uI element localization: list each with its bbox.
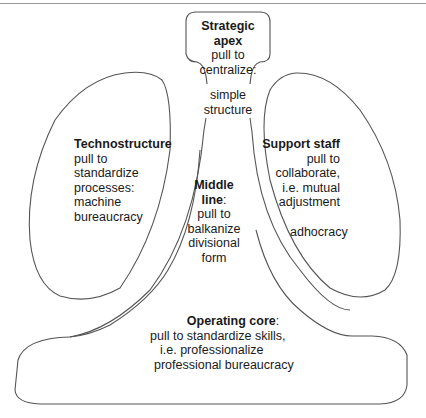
simple-structure-line: simple [190, 88, 266, 103]
strategic-apex-line: centralize: [186, 63, 270, 78]
middle-line-line: divisional [184, 236, 244, 251]
strategic-apex-label: Strategic apex pull to centralize: [186, 19, 270, 77]
strategic-apex-line: pull to [186, 48, 270, 63]
operating-core-line: pull to standardize skills, [148, 329, 308, 344]
middle-line-title: Middle [184, 178, 244, 193]
middle-line-line: form [184, 251, 244, 266]
support-staff-line: pull to [262, 152, 340, 167]
middle-line-colon: : [223, 193, 226, 207]
support-staff-line: collaborate, [262, 166, 340, 181]
operating-core-colon: : [276, 314, 279, 328]
operating-core-line: i.e. professionalize [148, 343, 308, 358]
technostructure-line: machine [74, 195, 172, 210]
adhocracy-text: adhocracy [290, 225, 342, 240]
support-staff-line: adjustment [262, 195, 340, 210]
simple-structure-line: structure [190, 103, 266, 118]
simple-structure-label: simple structure [190, 88, 266, 117]
strategic-apex-title2: apex [186, 34, 270, 49]
middle-line-title2: line [201, 193, 223, 207]
technostructure-line: bureaucracy [74, 210, 172, 225]
technostructure-line: pull to [74, 152, 172, 167]
support-staff-title: Support staff [262, 137, 340, 152]
technostructure-line: standardize [74, 166, 172, 181]
operating-core-line: professional bureaucracy [148, 358, 308, 373]
operating-core-title: Operating core [187, 314, 276, 328]
technostructure-label: Technostructure pull to standardize proc… [74, 137, 172, 224]
operating-core-label: Operating core: pull to standardize skil… [148, 314, 308, 372]
support-staff-line: i.e. mutual [262, 181, 340, 196]
technostructure-title: Technostructure [74, 137, 172, 152]
middle-line-line: pull to [184, 207, 244, 222]
support-staff-label: Support staff pull to collaborate, i.e. … [262, 137, 340, 210]
middle-line-line: balkanize [184, 222, 244, 237]
technostructure-line: processes: [74, 181, 172, 196]
middle-line-label: Middle line: pull to balkanize divisiona… [184, 178, 244, 265]
adhocracy-label: adhocracy [290, 225, 342, 240]
strategic-apex-title: Strategic [186, 19, 270, 34]
